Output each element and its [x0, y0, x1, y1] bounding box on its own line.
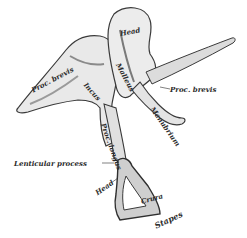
malleus-anterior-process [146, 38, 235, 84]
ossicles-figure: Head Malleus Incus Proc. brevis Proc. br… [0, 0, 247, 238]
label-proc-brevis-malleus: Proc. brevis [170, 86, 216, 93]
label-lenticular-process: Lenticular process [14, 160, 87, 167]
